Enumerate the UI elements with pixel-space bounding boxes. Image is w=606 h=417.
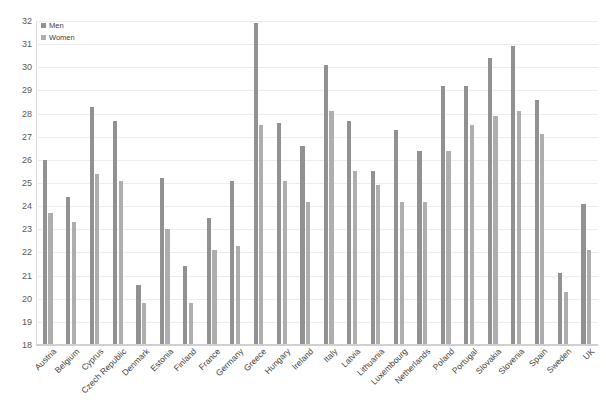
bar-men bbox=[347, 121, 351, 345]
bar-group bbox=[394, 21, 404, 345]
bar-men bbox=[254, 23, 258, 345]
y-axis-tick-30: 30 bbox=[6, 63, 32, 72]
legend-label-men: Men bbox=[49, 20, 64, 32]
bar-women bbox=[189, 303, 193, 345]
bar-group bbox=[324, 21, 334, 345]
bar-women bbox=[48, 213, 52, 345]
bar-group bbox=[277, 21, 287, 345]
bar-women bbox=[470, 125, 474, 345]
bar-women bbox=[540, 134, 544, 345]
bar-women bbox=[95, 174, 99, 345]
bar-women bbox=[236, 246, 240, 346]
bar-men bbox=[417, 151, 421, 345]
bar-men bbox=[535, 100, 539, 345]
y-axis-tick-24: 24 bbox=[6, 202, 32, 211]
bar-women bbox=[72, 222, 76, 345]
y-axis-tick-23: 23 bbox=[6, 225, 32, 234]
bar-group bbox=[160, 21, 170, 345]
bar-group bbox=[183, 21, 193, 345]
bar-women bbox=[564, 292, 568, 345]
y-axis-tick-32: 32 bbox=[6, 17, 32, 26]
bar-women bbox=[400, 202, 404, 345]
bar-group bbox=[511, 21, 521, 345]
bar-men bbox=[183, 266, 187, 345]
bar-chart: 181920212223242526272829303132 AustriaBe… bbox=[0, 0, 606, 417]
y-axis-tick-25: 25 bbox=[6, 179, 32, 188]
bar-group bbox=[581, 21, 591, 345]
bar-women bbox=[212, 250, 216, 345]
bar-group bbox=[66, 21, 76, 345]
legend-item-women: Women bbox=[41, 32, 75, 44]
bar-men bbox=[207, 218, 211, 345]
y-axis-tick-18: 18 bbox=[6, 341, 32, 350]
y-axis-tick-27: 27 bbox=[6, 132, 32, 141]
bar-group bbox=[558, 21, 568, 345]
y-axis-tick-29: 29 bbox=[6, 86, 32, 95]
bar-women bbox=[587, 250, 591, 345]
bar-men bbox=[488, 58, 492, 345]
bar-women bbox=[119, 181, 123, 345]
x-axis-line bbox=[36, 344, 598, 345]
bar-men bbox=[160, 178, 164, 345]
y-axis-tick-22: 22 bbox=[6, 248, 32, 257]
y-axis-tick-20: 20 bbox=[6, 294, 32, 303]
bar-group bbox=[441, 21, 451, 345]
women-swatch-icon bbox=[41, 35, 46, 40]
bar-men bbox=[300, 146, 304, 345]
bar-group bbox=[43, 21, 53, 345]
bar-women bbox=[329, 111, 333, 345]
bar-women bbox=[376, 185, 380, 345]
bar-group bbox=[136, 21, 146, 345]
y-axis-tick-31: 31 bbox=[6, 40, 32, 49]
x-axis-labels: AustriaBelgiumCyprusCzech RepublicDenmar… bbox=[36, 347, 598, 417]
bar-women bbox=[517, 111, 521, 345]
bar-men bbox=[90, 107, 94, 345]
bar-group bbox=[371, 21, 381, 345]
bars-layer bbox=[36, 21, 598, 345]
bar-men bbox=[581, 204, 585, 345]
bar-women bbox=[142, 303, 146, 345]
bar-women bbox=[259, 125, 263, 345]
bar-women bbox=[306, 202, 310, 345]
bar-group bbox=[207, 21, 217, 345]
bar-men bbox=[230, 181, 234, 345]
bar-women bbox=[446, 151, 450, 345]
bar-men bbox=[441, 86, 445, 345]
bar-group bbox=[488, 21, 498, 345]
bar-women bbox=[165, 229, 169, 345]
bar-men bbox=[136, 285, 140, 345]
bar-men bbox=[66, 197, 70, 345]
bar-group bbox=[300, 21, 310, 345]
chart-legend: Men Women bbox=[41, 20, 75, 43]
bar-men bbox=[464, 86, 468, 345]
bar-group bbox=[464, 21, 474, 345]
bar-group bbox=[230, 21, 240, 345]
bar-men bbox=[558, 273, 562, 345]
legend-item-men: Men bbox=[41, 20, 75, 32]
bar-women bbox=[423, 202, 427, 345]
bar-men bbox=[277, 123, 281, 345]
plot-area bbox=[36, 21, 598, 345]
bar-group bbox=[347, 21, 357, 345]
bar-men bbox=[371, 171, 375, 345]
bar-women bbox=[493, 116, 497, 345]
y-axis-tick-21: 21 bbox=[6, 271, 32, 280]
bar-group bbox=[535, 21, 545, 345]
bar-group bbox=[254, 21, 264, 345]
y-axis-tick-26: 26 bbox=[6, 155, 32, 164]
bar-men bbox=[43, 160, 47, 345]
legend-label-women: Women bbox=[49, 32, 75, 44]
bar-group bbox=[113, 21, 123, 345]
bar-group bbox=[90, 21, 100, 345]
bar-men bbox=[511, 46, 515, 345]
bar-men bbox=[324, 65, 328, 345]
men-swatch-icon bbox=[41, 23, 46, 28]
y-axis: 181920212223242526272829303132 bbox=[0, 21, 32, 345]
bar-men bbox=[394, 130, 398, 345]
bar-men bbox=[113, 121, 117, 345]
bar-group bbox=[417, 21, 427, 345]
y-axis-tick-28: 28 bbox=[6, 109, 32, 118]
y-axis-tick-19: 19 bbox=[6, 317, 32, 326]
bar-women bbox=[283, 181, 287, 345]
bar-women bbox=[353, 171, 357, 345]
